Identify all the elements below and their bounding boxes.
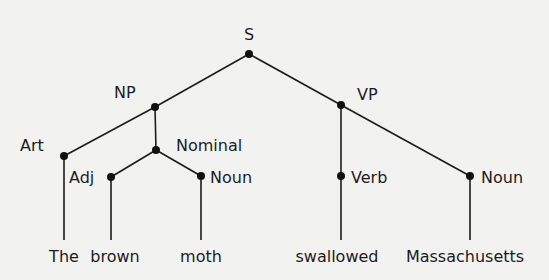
node-label-verb: Verb <box>351 168 387 187</box>
node-label-vp: VP <box>357 85 378 104</box>
node-label-s: S <box>244 25 254 44</box>
node-dot-noun-2 <box>466 172 474 180</box>
tree-canvas: S NP VP Art Nominal Adj Noun Verb Noun T… <box>0 0 549 280</box>
node-dot-np <box>151 103 159 111</box>
node-label-noun-1: Noun <box>210 168 252 187</box>
word-moth: moth <box>180 247 222 266</box>
node-label-nominal: Nominal <box>176 136 242 155</box>
node-dot-verb <box>337 172 345 180</box>
tree-labels: S NP VP Art Nominal Adj Noun Verb Noun <box>20 25 523 187</box>
tree-edges <box>64 54 470 240</box>
word-massachusetts: Massachusetts <box>406 247 524 266</box>
word-the: The <box>48 247 79 266</box>
node-dot-adj <box>107 173 115 181</box>
edge-np-nominal <box>155 107 156 150</box>
edge-vp-noun <box>341 105 470 176</box>
tree-node-dots <box>60 50 474 181</box>
node-label-adj: Adj <box>69 168 94 187</box>
edge-s-np <box>155 54 249 107</box>
edge-nominal-adj <box>111 150 156 177</box>
node-dot-noun-1 <box>197 172 205 180</box>
sentence-words: The brown moth swallowed Massachusetts <box>48 247 524 266</box>
node-dot-nominal <box>152 146 160 154</box>
node-label-art: Art <box>20 136 44 155</box>
node-label-noun-2: Noun <box>481 168 523 187</box>
edge-s-vp <box>249 54 341 105</box>
word-brown: brown <box>90 247 139 266</box>
node-dot-s <box>245 50 253 58</box>
node-label-np: NP <box>114 83 136 102</box>
word-swallowed: swallowed <box>296 247 379 266</box>
edge-np-art <box>64 107 155 156</box>
parse-tree-diagram: S NP VP Art Nominal Adj Noun Verb Noun T… <box>0 0 549 280</box>
node-dot-vp <box>337 101 345 109</box>
node-dot-art <box>60 152 68 160</box>
